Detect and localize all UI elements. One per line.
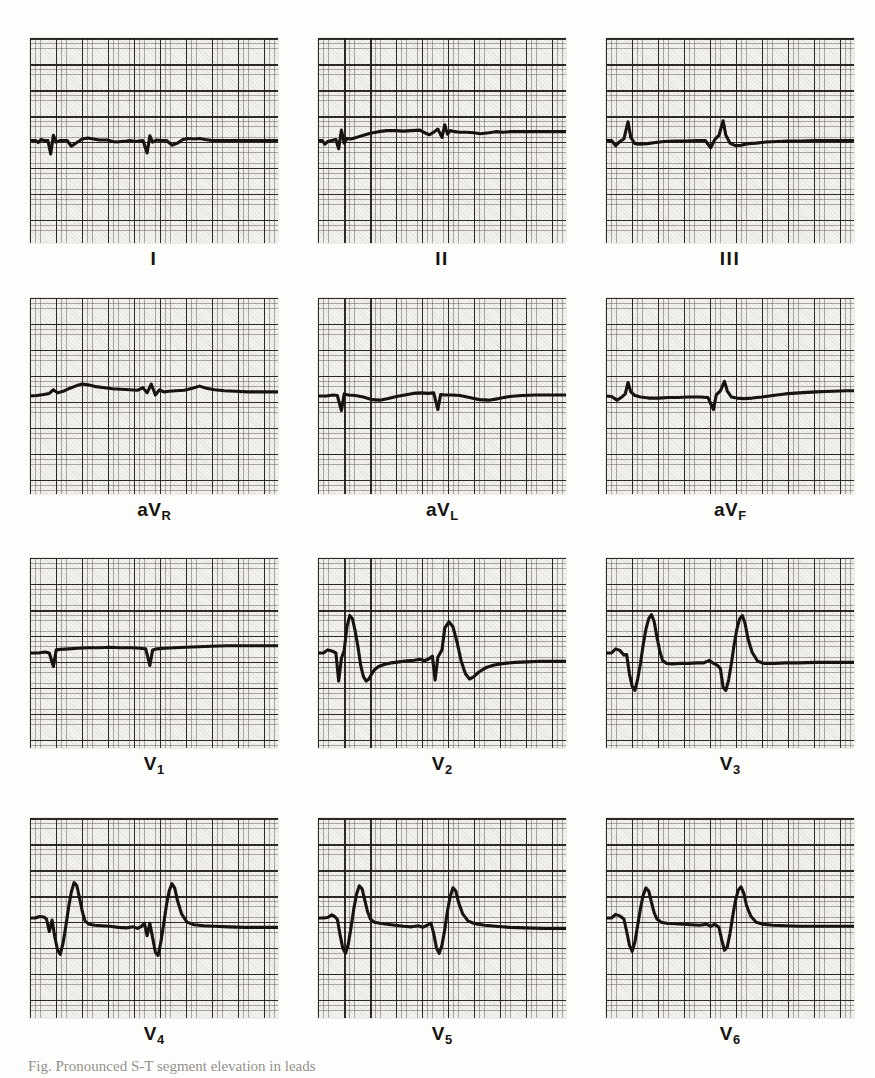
ecg-lead-label-avr: aVR [30,500,278,523]
ecg-lead-cell-v2: V2 [318,558,566,777]
ecg-trace-v3 [606,558,854,748]
ecg-panel-v2 [318,558,566,748]
ecg-lead-cell-v4: V4 [30,818,278,1047]
ecg-lead-cell-i: I [30,38,278,268]
ecg-lead-cell-avl: aVL [318,298,566,523]
ecg-lead-label-v5: V5 [318,1024,566,1047]
ecg-trace-avf [606,298,854,494]
ecg-trace-v6 [606,818,854,1018]
ecg-trace-v1 [30,558,278,748]
ecg-lead-label-v4: V4 [30,1024,278,1047]
ecg-lead-cell-v6: V6 [606,818,854,1047]
ecg-trace-avr [30,298,278,494]
ecg-panel-avr [30,298,278,494]
ecg-lead-label-v6: V6 [606,1024,854,1047]
ecg-trace-v5 [318,818,566,1018]
ecg-trace-i [30,38,278,243]
ecg-lead-label-i: I [30,249,278,268]
ecg-panel-ii [318,38,566,243]
ecg-trace-iii [606,38,854,243]
ecg-lead-cell-v1: V1 [30,558,278,777]
figure-caption: Fig. Pronounced S-T segment elevation in… [28,1058,848,1075]
ecg-lead-cell-avr: aVR [30,298,278,523]
ecg-lead-label-v1: V1 [30,754,278,777]
ecg-panel-v1 [30,558,278,748]
ecg-panel-v4 [30,818,278,1018]
ecg-panel-avf [606,298,854,494]
ecg-lead-label-v2: V2 [318,754,566,777]
ecg-lead-label-avf: aVF [606,500,854,523]
ecg-panel-iii [606,38,854,243]
ecg-panel-avl [318,298,566,494]
ecg-figure: IIIIII aVRaVLaVF V1V2V3 V4V5V6 Fig. Pron… [0,0,875,1078]
ecg-lead-cell-avf: aVF [606,298,854,523]
ecg-lead-label-v3: V3 [606,754,854,777]
ecg-trace-v2 [318,558,566,748]
ecg-panel-v5 [318,818,566,1018]
ecg-lead-cell-ii: II [318,38,566,268]
ecg-lead-label-avl: aVL [318,500,566,523]
ecg-lead-label-ii: II [318,249,566,268]
ecg-panel-v6 [606,818,854,1018]
ecg-lead-cell-v5: V5 [318,818,566,1047]
ecg-panel-i [30,38,278,243]
ecg-trace-v4 [30,818,278,1018]
ecg-lead-cell-v3: V3 [606,558,854,777]
ecg-lead-cell-iii: III [606,38,854,268]
ecg-panel-v3 [606,558,854,748]
ecg-trace-ii [318,38,566,243]
ecg-trace-avl [318,298,566,494]
ecg-lead-label-iii: III [606,249,854,268]
